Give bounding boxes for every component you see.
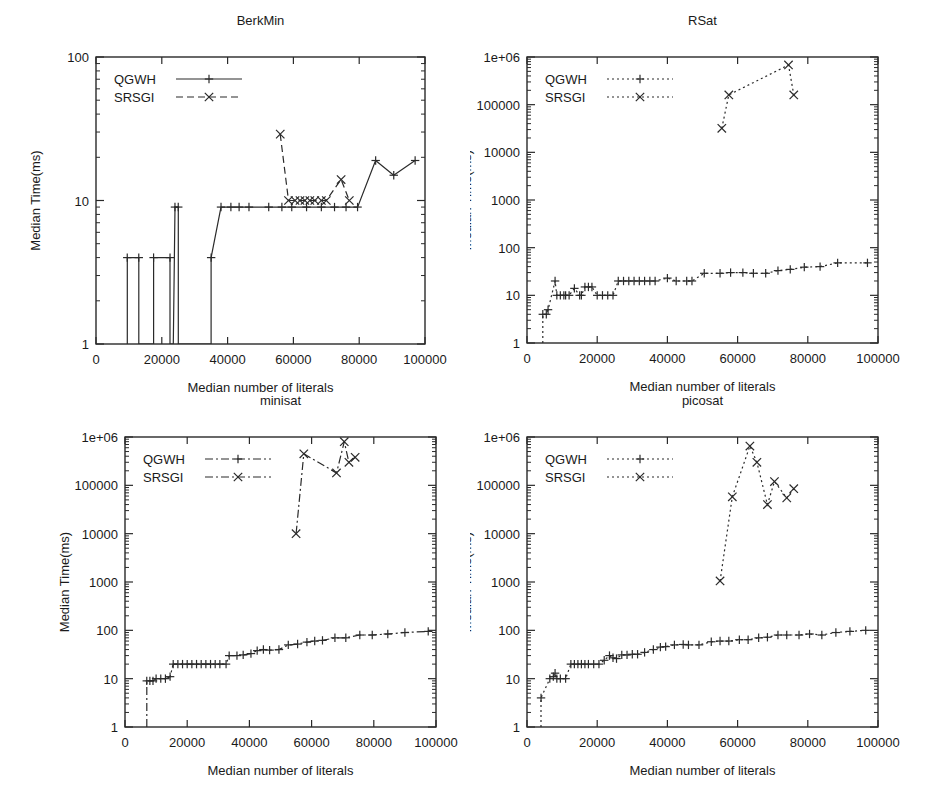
y-tick-label: 1e+06 xyxy=(483,430,520,445)
plot-area-minisat xyxy=(143,437,433,727)
y-tick-label: 10000 xyxy=(484,145,520,160)
y-tick-label: 10000 xyxy=(484,527,520,542)
y-tick-label: 10000 xyxy=(82,527,118,542)
y-tick-label: 10 xyxy=(75,194,89,209)
x-tick-label: 80000 xyxy=(341,352,377,367)
y-axis-label: Median Time(ms) xyxy=(57,532,72,632)
x-tick-label: 0 xyxy=(523,735,530,750)
chart-legend-rsat: QGWHSRSGI xyxy=(545,72,673,105)
chart-title-minisat: minisat xyxy=(260,395,302,408)
x-tick-label: 40000 xyxy=(649,351,685,366)
y-axis-label: Median Time(ms) xyxy=(470,150,474,250)
legend-label-qgwh: QGWH xyxy=(545,452,587,467)
legend-label-srsgi: SRSGI xyxy=(545,90,585,105)
x-tick-label: 0 xyxy=(523,351,530,366)
legend-label-srsgi: SRSGI xyxy=(143,470,183,485)
x-tick-label: 60000 xyxy=(720,735,756,750)
x-tick-label: 80000 xyxy=(790,735,826,750)
x-tick-label: 100000 xyxy=(414,735,457,750)
series-markers-qgwh xyxy=(123,156,419,262)
x-tick-label: 20000 xyxy=(579,735,615,750)
series-markers-srsgi xyxy=(292,437,359,537)
x-tick-label: 80000 xyxy=(790,351,826,366)
legend-label-qgwh: QGWH xyxy=(545,72,587,87)
series-line-qgwh xyxy=(543,263,868,343)
chart-title-rsat: RSat xyxy=(688,13,717,28)
x-axis-label: Median number of literals xyxy=(630,379,776,394)
x-tick-label: 0 xyxy=(92,352,99,367)
series-markers-qgwh xyxy=(539,259,872,319)
y-tick-label: 100000 xyxy=(75,478,118,493)
series-markers-srsgi xyxy=(718,61,798,133)
y-tick-label: 100 xyxy=(67,50,89,65)
series-line-srsgi xyxy=(722,65,794,128)
y-axis-label: Median Time(ms) xyxy=(470,532,474,632)
y-tick-label: 1000 xyxy=(491,193,520,208)
chart-legend-picosat: QGWHSRSGI xyxy=(545,452,673,485)
y-tick-label: 1e+06 xyxy=(81,430,118,445)
x-tick-label: 40000 xyxy=(649,735,685,750)
x-axis-label: Median number of literals xyxy=(188,380,334,395)
y-axis-label: Median Time(ms) xyxy=(28,150,43,250)
plot-area-berkmin xyxy=(123,130,419,344)
y-tick-label: 1000 xyxy=(491,575,520,590)
x-tick-label: 20000 xyxy=(579,351,615,366)
y-tick-label: 100 xyxy=(96,623,118,638)
series-markers-srsgi xyxy=(716,442,798,585)
x-axis-label: Median number of literals xyxy=(630,763,776,778)
x-tick-label: 20000 xyxy=(144,352,180,367)
x-tick-label: 60000 xyxy=(275,352,311,367)
x-tick-label: 100000 xyxy=(856,735,899,750)
x-tick-label: 60000 xyxy=(294,735,330,750)
y-tick-label: 100 xyxy=(498,623,520,638)
chart-title-berkmin: BerkMin xyxy=(237,13,285,28)
x-tick-label: 20000 xyxy=(169,735,205,750)
x-tick-label: 60000 xyxy=(720,351,756,366)
chart-legend-berkmin: QGWHSRSGI xyxy=(114,72,242,105)
series-line-srsgi xyxy=(280,134,349,200)
y-tick-label: 1 xyxy=(513,720,520,735)
chart-svg-picosat: picosat020000400006000080000100000110100… xyxy=(470,395,937,794)
x-tick-label: 0 xyxy=(121,735,128,750)
chart-svg-rsat: RSat020000400006000080000100000110100100… xyxy=(470,0,937,400)
x-tick-label: 100000 xyxy=(403,352,446,367)
plot-area-picosat xyxy=(537,442,870,727)
y-tick-label: 100000 xyxy=(477,98,520,113)
plot-area-rsat xyxy=(539,61,872,343)
series-line-qgwh xyxy=(147,631,428,727)
x-tick-label: 80000 xyxy=(356,735,392,750)
y-tick-label: 10 xyxy=(506,288,520,303)
y-tick-label: 10 xyxy=(506,672,520,687)
series-line-qgwh xyxy=(541,630,866,727)
y-tick-label: 100 xyxy=(498,241,520,256)
chart-panel-berkmin: BerkMin020000400006000080000100000110100… xyxy=(0,0,470,400)
chart-panel-picosat: picosat020000400006000080000100000110100… xyxy=(470,395,937,794)
series-line-qgwh xyxy=(127,161,415,345)
legend-label-qgwh: QGWH xyxy=(114,72,156,87)
x-tick-label: 40000 xyxy=(231,735,267,750)
y-tick-label: 1 xyxy=(513,336,520,351)
chart-svg-berkmin: BerkMin020000400006000080000100000110100… xyxy=(0,0,470,400)
y-tick-label: 1e+06 xyxy=(483,50,520,65)
series-markers-qgwh xyxy=(537,626,870,702)
y-tick-label: 1 xyxy=(82,337,89,352)
chart-title-picosat: picosat xyxy=(682,395,724,408)
y-tick-label: 1 xyxy=(111,720,118,735)
x-axis-label: Median number of literals xyxy=(208,763,354,778)
chart-legend-minisat: QGWHSRSGI xyxy=(143,452,271,485)
y-tick-label: 100000 xyxy=(477,478,520,493)
legend-label-srsgi: SRSGI xyxy=(114,90,154,105)
x-tick-label: 100000 xyxy=(856,351,899,366)
chart-panel-rsat: RSat020000400006000080000100000110100100… xyxy=(470,0,937,400)
figure-root: BerkMin020000400006000080000100000110100… xyxy=(0,0,937,794)
y-tick-label: 10 xyxy=(104,672,118,687)
chart-panel-minisat: minisat020000400006000080000100000110100… xyxy=(0,395,470,794)
series-markers-qgwh xyxy=(143,627,433,685)
y-tick-label: 1000 xyxy=(89,575,118,590)
legend-label-qgwh: QGWH xyxy=(143,452,185,467)
chart-svg-minisat: minisat020000400006000080000100000110100… xyxy=(0,395,470,794)
legend-label-srsgi: SRSGI xyxy=(545,470,585,485)
series-line-srsgi xyxy=(720,446,794,581)
x-tick-label: 40000 xyxy=(210,352,246,367)
